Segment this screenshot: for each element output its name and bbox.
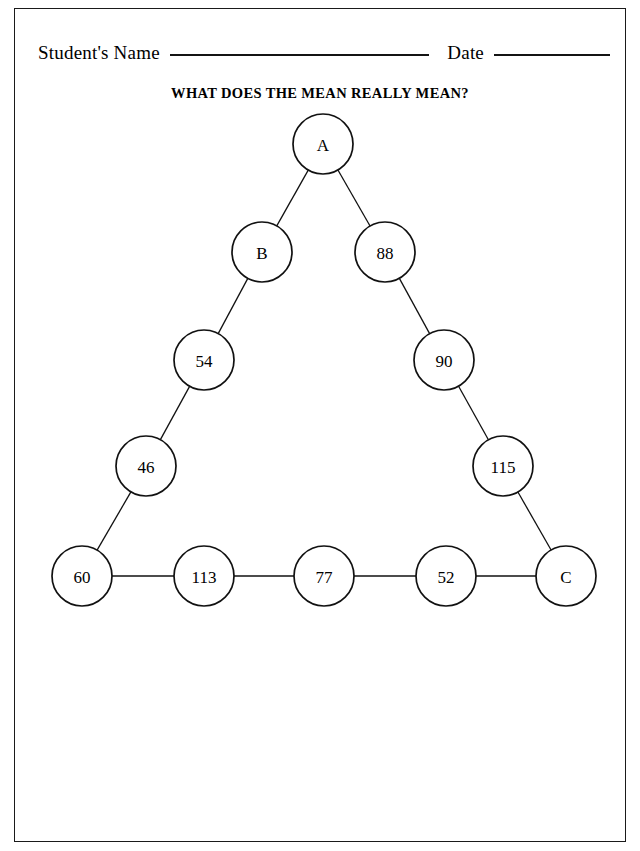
student-name-label: Student's Name (38, 42, 160, 64)
node-label-bottom-1: 60 (74, 568, 91, 587)
node-left-3[interactable]: 46 (116, 436, 176, 496)
edge-left-2-to-left-3 (160, 386, 189, 439)
node-label-bottom-2: 113 (192, 568, 217, 587)
node-bottom-5[interactable]: C (536, 546, 596, 606)
header-row: Student's Name Date (38, 42, 610, 72)
date-write-in-line[interactable] (494, 54, 610, 56)
node-right-1[interactable]: 88 (355, 222, 415, 282)
edge-right-2-to-right-3 (459, 386, 489, 440)
node-right-3[interactable]: 115 (473, 436, 533, 496)
node-label-bottom-5: C (560, 568, 571, 587)
node-left-2[interactable]: 54 (174, 330, 234, 390)
edge-apex-to-left-1 (277, 170, 309, 226)
triangle-puzzle-diagram: AB88549046115601137752C (14, 100, 626, 630)
node-left-1[interactable]: B (232, 222, 292, 282)
edge-right-1-to-right-2 (399, 278, 429, 333)
date-label: Date (447, 42, 484, 64)
node-label-left-2: 54 (196, 352, 214, 371)
node-label-apex: A (317, 136, 330, 155)
node-right-2[interactable]: 90 (414, 330, 474, 390)
node-label-right-3: 115 (491, 458, 516, 477)
node-label-right-2: 90 (436, 352, 453, 371)
node-label-bottom-4: 52 (438, 568, 455, 587)
triangle-diagram-svg: AB88549046115601137752C (14, 100, 626, 630)
edge-left-1-to-left-2 (218, 278, 248, 333)
node-label-left-3: 46 (138, 458, 155, 477)
node-apex[interactable]: A (293, 114, 353, 174)
edge-lines-group (97, 170, 551, 576)
edge-apex-to-right-1 (338, 170, 370, 226)
node-label-left-1: B (256, 244, 267, 263)
node-bottom-2[interactable]: 113 (174, 546, 234, 606)
worksheet-page: Student's Name Date WHAT DOES THE MEAN R… (0, 0, 640, 851)
node-label-right-1: 88 (377, 244, 394, 263)
node-label-bottom-3: 77 (316, 568, 334, 587)
node-bottom-4[interactable]: 52 (416, 546, 476, 606)
node-bottom-3[interactable]: 77 (294, 546, 354, 606)
node-circles-group: AB88549046115601137752C (52, 114, 596, 606)
node-bottom-1[interactable]: 60 (52, 546, 112, 606)
student-name-write-in-line[interactable] (170, 54, 430, 56)
edge-left-3-to-bottom-1 (97, 492, 131, 550)
edge-right-3-to-bottom-5 (518, 492, 551, 550)
